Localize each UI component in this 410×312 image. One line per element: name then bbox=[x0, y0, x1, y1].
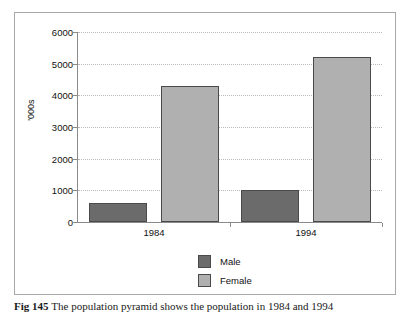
y-tickmark bbox=[72, 95, 77, 96]
legend-label-male: Male bbox=[220, 256, 241, 267]
y-tick-label: 1000 bbox=[33, 185, 73, 196]
chart-legend: Male Female bbox=[198, 253, 328, 291]
legend-item-female[interactable]: Female bbox=[198, 272, 328, 289]
legend-item-male[interactable]: Male bbox=[198, 253, 328, 270]
x-category-label-1994: 1994 bbox=[276, 227, 336, 238]
figure-caption: Fig 145 The population pyramid shows the… bbox=[14, 300, 410, 312]
y-tick-label: 0 bbox=[33, 217, 73, 228]
figure-frame: '000s 0100020003000400050006000 19841994… bbox=[14, 12, 396, 295]
y-tick-label: 2000 bbox=[33, 153, 73, 164]
bar-female-1994[interactable] bbox=[313, 57, 371, 222]
y-tickmark bbox=[72, 64, 77, 65]
figure-caption-label: Fig 145 bbox=[14, 300, 49, 312]
x-tickmark bbox=[230, 223, 231, 227]
y-tickmark bbox=[72, 159, 77, 160]
y-axis-tick-labels: 0100020003000400050006000 bbox=[33, 13, 73, 296]
y-tick-label: 3000 bbox=[33, 122, 73, 133]
y-tickmark bbox=[72, 222, 77, 223]
y-tickmark bbox=[72, 190, 77, 191]
bar-female-1984[interactable] bbox=[161, 86, 219, 222]
x-category-label-1984: 1984 bbox=[124, 227, 184, 238]
x-tickmark bbox=[382, 223, 383, 227]
y-tickmark bbox=[72, 32, 77, 33]
y-tick-label: 5000 bbox=[33, 58, 73, 69]
legend-swatch-male bbox=[198, 255, 211, 268]
y-tick-label: 6000 bbox=[33, 27, 73, 38]
legend-label-female: Female bbox=[220, 275, 252, 286]
legend-swatch-female bbox=[198, 274, 211, 287]
bar-male-1994[interactable] bbox=[241, 190, 299, 222]
figure-caption-text: The population pyramid shows the populat… bbox=[51, 300, 333, 312]
bars-container bbox=[78, 32, 382, 222]
y-tick-label: 4000 bbox=[33, 90, 73, 101]
bar-male-1984[interactable] bbox=[89, 203, 147, 222]
y-tickmark bbox=[72, 127, 77, 128]
